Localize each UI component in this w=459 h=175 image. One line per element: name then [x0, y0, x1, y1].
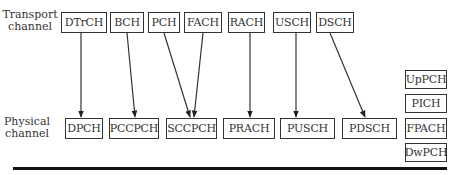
transport-box-label: DSCH [318, 16, 352, 29]
physical-box-label: UpPCH [406, 73, 447, 86]
physical-box-pich: PICH [405, 94, 447, 113]
arrow-bch-pccpch [127, 33, 135, 117]
transport-box-fach: FACH [184, 12, 222, 33]
physical-box-fpach: FPACH [405, 118, 447, 139]
physical-box-prach: PRACH [223, 118, 275, 139]
transport-box-dsch: DSCH [316, 12, 354, 33]
physical-box-pdsch: PDSCH [342, 118, 397, 139]
physical-box-label: PRACH [229, 122, 270, 135]
physical-box-label: PICH [412, 97, 441, 110]
physical-box-label: PUSCH [287, 122, 328, 135]
physical-box-dwpch: DwPCH [405, 143, 447, 162]
transport-box-label: DTrCH [65, 16, 103, 29]
physical-box-uppch: UpPCH [405, 70, 447, 89]
transport-box-label: PCH [152, 16, 177, 29]
transport-box-bch: BCH [110, 12, 144, 33]
physical-box-pccpch: PCCPCH [109, 118, 159, 139]
physical-box-label: PCCPCH [110, 122, 158, 135]
physical-box-dpch: DPCH [65, 118, 103, 139]
arrow-dsch-pdsch [330, 33, 365, 117]
bottom-rule [13, 167, 447, 170]
transport-box-dtrch: DTrCH [61, 12, 107, 33]
arrow-fach-sccpch [194, 33, 203, 117]
physical-box-label: PDSCH [349, 122, 390, 135]
arrow-pch-sccpch [164, 33, 190, 117]
physical-box-label: DPCH [67, 122, 100, 135]
transport-box-label: BCH [114, 16, 140, 29]
physical-box-pusch: PUSCH [280, 118, 335, 139]
physical-box-label: DwPCH [405, 146, 448, 159]
physical-box-label: SCCPCH [167, 122, 216, 135]
transport-box-usch: USCH [273, 12, 311, 33]
transport-box-pch: PCH [148, 12, 180, 33]
physical-box-label: FPACH [407, 122, 446, 135]
physical-box-sccpch: SCCPCH [166, 118, 217, 139]
transport-box-rach: RACH [228, 12, 265, 33]
transport-box-label: RACH [230, 16, 263, 29]
transport-box-label: USCH [275, 16, 309, 29]
transport-box-label: FACH [187, 16, 219, 29]
